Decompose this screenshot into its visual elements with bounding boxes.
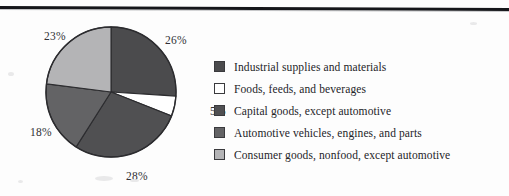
- pie-slice-group: [46, 27, 176, 157]
- scan-speckle: [18, 180, 23, 183]
- legend-swatch-automotive-vehicles: [214, 127, 225, 138]
- legend-label-automotive-vehicles: Automotive vehicles, engines, and parts: [234, 127, 422, 139]
- legend-label-industrial-supplies: Industrial supplies and materials: [234, 61, 386, 73]
- legend-swatch-capital-goods: [214, 105, 225, 116]
- pie-data-label-capital-goods: 28%: [126, 170, 148, 182]
- legend-item: Industrial supplies and materials: [214, 56, 499, 77]
- scan-speckle: [8, 72, 14, 76]
- legend-item: Capital goods, except automotive: [214, 100, 499, 121]
- legend-label-consumer-goods: Consumer goods, nonfood, except automoti…: [234, 149, 450, 161]
- legend-swatch-industrial-supplies: [214, 61, 225, 72]
- pie-chart: 26% 5% 28% 18% 23%: [34, 14, 212, 186]
- legend-label-capital-goods: Capital goods, except automotive: [234, 105, 391, 117]
- legend-swatch-consumer-goods: [214, 149, 225, 160]
- legend-swatch-foods-feeds: [214, 83, 225, 94]
- pie-data-label-automotive-vehicles: 18%: [30, 126, 52, 138]
- legend-label-foods-feeds: Foods, feeds, and beverages: [234, 83, 366, 95]
- legend-item: Automotive vehicles, engines, and parts: [214, 122, 499, 143]
- figure-canvas: 26% 5% 28% 18% 23% Industrial supplies a…: [0, 0, 509, 196]
- chart-legend: Industrial supplies and materials Foods,…: [214, 56, 499, 166]
- legend-item: Foods, feeds, and beverages: [214, 78, 499, 99]
- pie-data-label-industrial-supplies: 26%: [165, 34, 187, 46]
- legend-item: Consumer goods, nonfood, except automoti…: [214, 144, 499, 165]
- pie-data-label-consumer-goods: 23%: [44, 30, 66, 42]
- scan-speckle: [470, 22, 477, 25]
